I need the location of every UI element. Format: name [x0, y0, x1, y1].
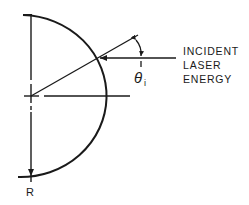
incidence-angle-arc: [136, 40, 141, 56]
incident-label-line2: LASER: [183, 59, 221, 71]
incident-label-line3: ENERGY: [183, 73, 232, 85]
radius-label: R: [26, 186, 34, 198]
theta-label: θ: [134, 69, 142, 86]
theta-subscript: i: [144, 78, 146, 88]
incident-label-line1: INCIDENT: [183, 45, 239, 57]
surface-normal-line: [31, 35, 138, 96]
hemisphere-incidence-diagram: θ i INCIDENT LASER ENERGY R: [0, 0, 249, 205]
